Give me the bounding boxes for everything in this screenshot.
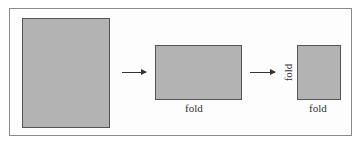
arrow-icon-1	[122, 72, 146, 73]
arrow-icon-2	[250, 72, 275, 73]
fold-label-bottom: fold	[309, 103, 327, 114]
folded-once-sheet	[155, 45, 242, 100]
full-sheet	[22, 18, 110, 128]
fold-label-side: fold	[283, 64, 294, 82]
fold-label-1: fold	[185, 103, 203, 114]
folded-twice-sheet	[297, 45, 341, 100]
